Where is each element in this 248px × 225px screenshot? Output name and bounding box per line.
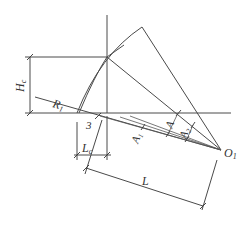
- radial-line-upper: [107, 57, 221, 150]
- arc-outer: [77, 27, 142, 113]
- l-ext-right: [202, 160, 217, 210]
- parallel-line-3: [130, 116, 221, 150]
- label-hc: Hc: [13, 79, 28, 93]
- label-r1: R1: [50, 96, 66, 114]
- radial-stub: [107, 45, 124, 57]
- diagram-canvas: Hc R1 3 Lc A1 A A2 O1 L: [0, 0, 248, 225]
- label-3: 3: [85, 119, 92, 131]
- label-lc: Lc: [81, 141, 93, 156]
- label-a1: A1: [128, 131, 145, 146]
- label-o1: O1: [224, 146, 237, 161]
- label-l: L: [141, 174, 149, 188]
